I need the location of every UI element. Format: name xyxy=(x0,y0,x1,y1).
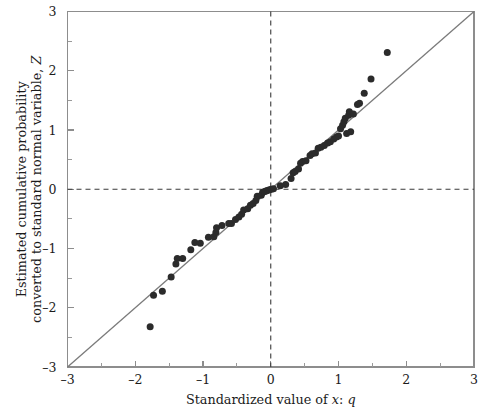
data-point xyxy=(282,181,289,188)
data-point xyxy=(150,292,157,299)
x-tick-label: –2 xyxy=(128,372,142,387)
y-axis-title-line-2: converted to standard normal variable, Z xyxy=(29,55,44,323)
x-tick-label: 0 xyxy=(267,372,275,387)
data-point xyxy=(218,222,225,229)
y-tick-label: –3 xyxy=(42,360,56,375)
data-point xyxy=(361,90,368,97)
x-axis-tick-labels: –3–2–10123 xyxy=(60,372,478,387)
data-point xyxy=(384,49,391,56)
scatter-plot-canvas: –3–2–10123 –3–2–10123 Standardized value… xyxy=(0,0,484,417)
data-point xyxy=(159,288,166,295)
y-tick-label: 0 xyxy=(49,182,57,197)
x-axis-title: Standardized value of x: q xyxy=(186,392,356,407)
data-point xyxy=(147,323,154,330)
data-point xyxy=(356,100,363,107)
data-point-group xyxy=(147,49,391,330)
y-tick-label: 3 xyxy=(49,4,57,19)
x-tick-label: –3 xyxy=(60,372,74,387)
data-point xyxy=(197,240,204,247)
y-axis-title-line-1: Estimated cumulative probability xyxy=(14,80,29,297)
data-point xyxy=(368,76,375,83)
y-tick-label: 2 xyxy=(49,63,57,78)
x-tick-label: –1 xyxy=(196,372,210,387)
x-tick-label: 1 xyxy=(335,372,343,387)
data-point xyxy=(350,111,357,118)
data-point xyxy=(270,185,277,192)
y-tick-label: –2 xyxy=(42,300,56,315)
qq-plot-figure: –3–2–10123 –3–2–10123 Standardized value… xyxy=(0,0,484,417)
data-point xyxy=(347,128,354,135)
x-axis-title-text: Standardized value of x: q xyxy=(186,392,356,407)
x-tick-label: 3 xyxy=(470,372,478,387)
data-point xyxy=(168,273,175,280)
data-point xyxy=(335,132,342,139)
data-point xyxy=(179,255,186,262)
y-axis-tick-labels: –3–2–10123 xyxy=(42,4,56,375)
y-tick-label: 1 xyxy=(49,123,57,138)
y-tick-label: –1 xyxy=(42,241,56,256)
data-point xyxy=(187,246,194,253)
x-tick-label: 2 xyxy=(402,372,410,387)
y-axis-title: Estimated cumulative probabilityconverte… xyxy=(14,55,44,323)
